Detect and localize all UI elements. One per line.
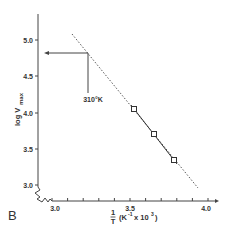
svg-text:max: max — [18, 92, 24, 105]
arrhenius-plot: 5.0 4.5 4.0 3.5 3.0 3.0 3.5 4.0 1 T (K -… — [0, 0, 226, 236]
svg-text:-1: -1 — [128, 211, 133, 217]
panel-label: B — [8, 208, 17, 223]
annotation-310K: 310°K — [44, 51, 103, 103]
svg-text:): ) — [155, 213, 158, 222]
y-axis: 5.0 4.5 4.0 3.5 3.0 — [23, 14, 38, 189]
svg-text:1: 1 — [111, 208, 115, 217]
y-tick-label: 4.0 — [23, 110, 33, 117]
data-point-marker — [152, 132, 157, 137]
svg-text:log V: log V — [13, 108, 22, 126]
x-tick-label: 4.0 — [201, 205, 211, 212]
svg-text:3: 3 — [151, 211, 154, 217]
y-tick-label: 4.5 — [23, 73, 33, 80]
arrow-left-icon — [44, 51, 49, 55]
axis-break-icon — [35, 187, 52, 202]
y-tick-label: 5.0 — [23, 37, 33, 44]
x-axis: 3.0 3.5 4.0 — [50, 198, 219, 212]
data-point-marker — [172, 158, 177, 163]
annotation-label: 310°K — [83, 96, 103, 103]
svg-text:T: T — [111, 217, 116, 226]
svg-text:x 10: x 10 — [134, 213, 149, 222]
data-point-marker — [132, 107, 137, 112]
y-tick-label: 3.5 — [23, 146, 33, 153]
y-tick-label: 3.0 — [23, 182, 33, 189]
svg-text:(K: (K — [119, 213, 127, 222]
x-tick-label: 3.0 — [50, 205, 60, 212]
